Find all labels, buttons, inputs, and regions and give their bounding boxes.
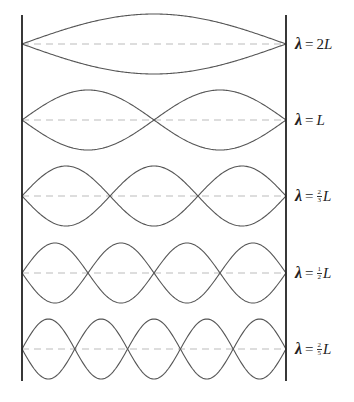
coefficient-fraction: 1 2	[317, 266, 323, 281]
length-symbol: L	[323, 189, 331, 204]
lambda-symbol: λ	[295, 188, 302, 204]
lambda-symbol: λ	[295, 341, 302, 357]
label-mode-1: λ = 2 L	[295, 36, 332, 52]
label-mode-4: λ = 1 2 L	[295, 265, 331, 281]
fraction-denominator: 3	[317, 197, 323, 204]
lambda-symbol: λ	[295, 265, 302, 281]
lambda-symbol: λ	[295, 112, 302, 128]
equals-sign: =	[305, 266, 313, 281]
fraction-denominator: 5	[317, 350, 323, 357]
coefficient-fraction: 2 5	[317, 342, 323, 357]
lambda-symbol: λ	[295, 36, 302, 52]
equilibrium-axes	[22, 44, 286, 349]
label-mode-5: λ = 2 5 L	[295, 341, 331, 357]
wave-curve-mode-1-lower	[22, 44, 286, 74]
wave-curve-mode-1-upper	[22, 14, 286, 44]
length-symbol: L	[323, 266, 331, 281]
equals-sign: =	[305, 189, 313, 204]
equals-sign: =	[305, 342, 313, 357]
length-symbol: L	[323, 342, 331, 357]
coefficient: 2	[317, 37, 325, 52]
length-symbol: L	[317, 113, 325, 128]
label-mode-3: λ = 2 3 L	[295, 188, 331, 204]
length-symbol: L	[324, 37, 332, 52]
equals-sign: =	[305, 37, 313, 52]
coefficient-fraction: 2 3	[317, 189, 323, 204]
label-mode-2: λ = L	[295, 112, 325, 128]
equals-sign: =	[305, 113, 313, 128]
fraction-denominator: 2	[317, 274, 323, 281]
